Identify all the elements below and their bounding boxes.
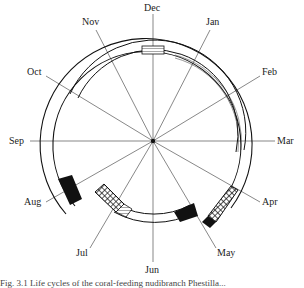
label-jun: Jun — [145, 264, 159, 275]
label-may: May — [217, 247, 235, 258]
center-dot — [151, 139, 155, 143]
label-mar: Mar — [277, 135, 294, 146]
inner-ring — [70, 40, 246, 152]
label-feb: Feb — [262, 66, 277, 77]
aug-black — [58, 175, 82, 205]
label-jul: Jul — [76, 247, 88, 258]
label-dec: Dec — [144, 2, 160, 13]
label-oct: Oct — [27, 66, 41, 77]
figure-caption: Fig. 3.1 Life cycles of the coral-feedin… — [0, 278, 304, 288]
label-aug: Aug — [24, 196, 41, 207]
label-apr: Apr — [262, 196, 278, 207]
dec-segment — [142, 46, 164, 54]
label-sep: Sep — [9, 135, 24, 146]
label-jan: Jan — [206, 16, 219, 27]
circular-diagram — [0, 0, 304, 288]
label-nov: Nov — [82, 16, 99, 27]
